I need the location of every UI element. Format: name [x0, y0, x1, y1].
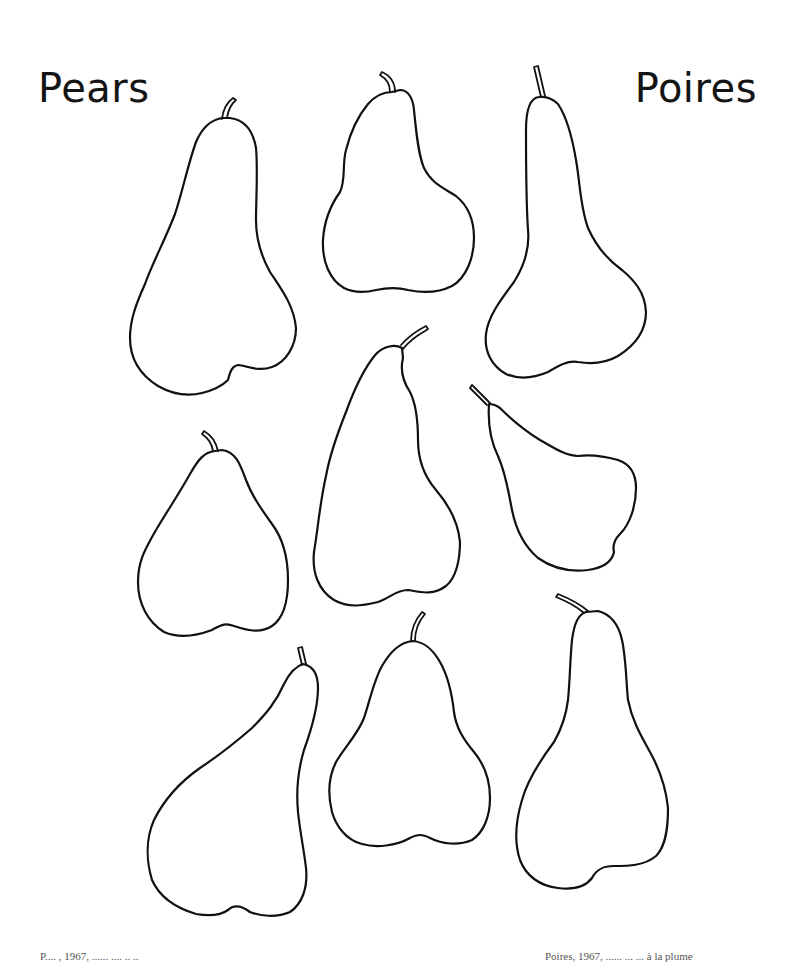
footer-caption-left: P.... , 1967, ...... .... .. .. [40, 950, 138, 962]
pear-5-icon [314, 326, 460, 606]
footer-caption-right: Poires, 1967, ...... ... ... à la plume [545, 950, 693, 962]
pear-1-icon [130, 98, 296, 395]
pear-9-icon [516, 594, 668, 889]
pear-8-icon [329, 612, 490, 846]
pear-6-icon [470, 385, 636, 571]
pear-2-icon [323, 72, 474, 292]
pear-7-icon [148, 647, 318, 916]
pear-3-icon [486, 66, 646, 378]
pear-4-icon [138, 431, 288, 636]
